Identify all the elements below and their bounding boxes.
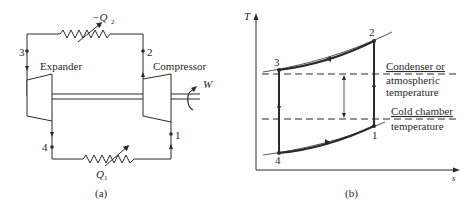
compressor-icon	[143, 74, 171, 122]
state-label-3: 3	[274, 56, 280, 68]
s-axis-arrow-icon	[453, 168, 460, 173]
heat-rejected-label: −Q	[92, 11, 107, 23]
process-2-3-heat-rejection	[279, 41, 374, 70]
variable-heat-exchanger-arrow-bottom	[105, 147, 127, 166]
state-label-2: 2	[147, 46, 153, 58]
heat-absorbed-label: Q	[96, 168, 104, 180]
state-label-1: 1	[372, 129, 378, 141]
state-label-2: 2	[369, 26, 375, 38]
panel-b-ts-diagram: T s 3 2 1 4 Condenser or atmospheric tem…	[244, 10, 460, 200]
process-4-1-heat-absorption	[279, 126, 374, 153]
expander-label: Expander	[40, 60, 82, 72]
t-axis-arrow-icon	[254, 13, 259, 20]
work-rotation-arrow-icon	[188, 90, 193, 110]
cold-chamber-label-line2: temperature	[391, 120, 444, 132]
state-point-1-dot	[169, 132, 173, 136]
arrowhead-down-icon	[342, 113, 346, 118]
s-axis-label: s	[452, 173, 456, 183]
state-label-1: 1	[175, 129, 181, 141]
flow-arrow-down-icon	[50, 132, 54, 137]
condenser-label-line2: atmospheric	[386, 74, 440, 86]
panel-a-refrigeration-circuit: 3 2 Expander Compressor W −Q 2 1 4 Q 1 (…	[19, 11, 213, 200]
cold-chamber-label-line1: Cold chamber	[391, 105, 453, 117]
work-label: W	[203, 78, 213, 90]
state-point-4-dot	[50, 145, 54, 149]
state-label-3: 3	[19, 46, 25, 58]
flow-arrow-down-icon	[25, 66, 29, 71]
state-label-4: 4	[42, 141, 48, 153]
heat-absorbed-subscript: 1	[104, 174, 108, 182]
high-pressure-isobar	[263, 32, 392, 72]
flow-arrow-up-icon	[141, 72, 145, 77]
bottom-pipe	[52, 121, 171, 163]
state-point-3-dot	[277, 68, 281, 72]
panel-a-caption: (a)	[95, 187, 108, 200]
expander-icon	[27, 74, 52, 121]
state-point-2-dot	[372, 39, 376, 43]
flow-arrow-up-icon	[169, 144, 173, 149]
compressor-label: Compressor	[153, 60, 207, 72]
state-point-2-dot	[141, 49, 145, 53]
heat-rejected-subscript: 2	[111, 18, 115, 26]
flow-arrow-up-icon	[372, 82, 376, 87]
condenser-label-line1: Condenser or	[386, 60, 445, 72]
state-point-1-dot	[372, 124, 376, 128]
flow-arrow-down-icon	[277, 106, 281, 111]
shaft	[52, 94, 200, 99]
arrowhead-up-icon	[342, 75, 346, 80]
work-arrowhead-icon	[191, 86, 197, 92]
state-point-3-dot	[25, 49, 29, 53]
state-label-4: 4	[275, 154, 281, 166]
diagram-canvas: 3 2 Expander Compressor W −Q 2 1 4 Q 1 (…	[0, 0, 476, 209]
low-pressure-isobar	[263, 122, 385, 155]
panel-b-caption: (b)	[345, 187, 358, 200]
condenser-label-line3: temperature	[386, 86, 439, 98]
t-axis-label: T	[244, 10, 251, 22]
